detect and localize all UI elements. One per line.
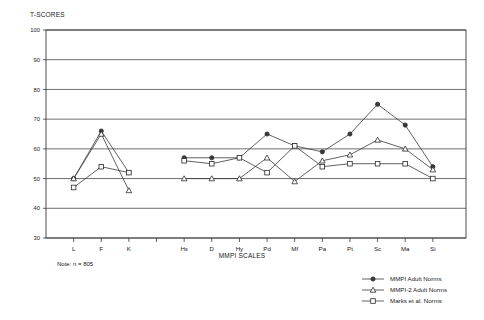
datapoint-L-square	[71, 185, 76, 190]
data-series-group	[71, 102, 436, 193]
legend-label-3: Marks et al. Norms	[390, 297, 442, 304]
series-line-seg-1	[74, 134, 129, 190]
y-tick-label-40: 40	[34, 205, 40, 211]
x-tick-label-Mf: Mf	[291, 245, 298, 252]
datapoint-Pa-square	[320, 164, 325, 169]
datapoint-Pd-triangle	[264, 155, 270, 160]
legend-item-1: MMPI Adult Norms	[362, 275, 442, 282]
legend-marker-circle	[371, 277, 375, 281]
x-tick-label-Pt: Pt	[347, 245, 353, 252]
sample-size-note: Note: n = 805	[57, 261, 94, 267]
x-axis-title: MMPI SCALES	[219, 252, 266, 259]
x-tick-label-F: F	[99, 245, 103, 252]
chart-legend: MMPI Adult NormsMMPI-2 Adult NormsMarks …	[362, 275, 447, 304]
x-tick-label-Hy: Hy	[236, 245, 244, 252]
datapoint-Sc-triangle	[375, 137, 381, 142]
legend-item-3: Marks et al. Norms	[362, 297, 442, 304]
x-tick-label-Si: Si	[430, 245, 436, 252]
plot-frame	[46, 30, 466, 238]
datapoint-K-square	[127, 170, 132, 175]
datapoint-Pt-triangle	[347, 152, 353, 157]
datapoint-K-triangle	[126, 188, 132, 193]
y-tick-label-100: 100	[30, 27, 40, 33]
x-tick-label-Sc: Sc	[374, 245, 381, 252]
x-axis-ticks: LFKHsDHyPdMfPaPtScMaSi	[72, 238, 436, 252]
y-tick-label-50: 50	[34, 176, 40, 182]
legend-label-2: MMPI-2 Adult Norms	[390, 286, 447, 293]
datapoint-D-square	[209, 161, 214, 166]
plot-border	[46, 30, 466, 238]
datapoint-Pd-circle	[265, 132, 269, 136]
datapoint-Pt-circle	[348, 132, 352, 136]
datapoint-Pa-circle	[320, 150, 324, 154]
x-tick-label-Hs: Hs	[180, 245, 188, 252]
series-line-seg-1	[74, 131, 129, 179]
x-tick-label-Pa: Pa	[319, 245, 327, 252]
mmpi-profile-chart: 10090807060504030 LFKHsDHyPdMfPaPtScMaSi…	[0, 0, 484, 320]
datapoint-Ma-square	[403, 161, 408, 166]
datapoint-Sc-circle	[375, 102, 379, 106]
y-tick-label-30: 30	[34, 235, 40, 241]
series-line-seg-2	[184, 104, 433, 166]
datapoint-F-square	[99, 164, 104, 169]
y-tick-label-60: 60	[34, 146, 40, 152]
datapoint-D-circle	[210, 156, 214, 160]
datapoint-Si-square	[431, 176, 436, 181]
datapoint-Ma-circle	[403, 123, 407, 127]
series-line-seg-2	[184, 140, 433, 182]
series-line-seg-2	[184, 146, 433, 179]
datapoint-Mf-square	[292, 144, 297, 149]
x-tick-label-Pd: Pd	[263, 245, 271, 252]
datapoint-Pt-square	[348, 161, 353, 166]
datapoint-Hs-square	[182, 158, 187, 163]
x-tick-label-D: D	[210, 245, 215, 252]
gridlines-group	[46, 30, 466, 238]
x-tick-label-K: K	[127, 245, 132, 252]
x-tick-label-Ma: Ma	[401, 245, 410, 252]
y-tick-label-70: 70	[34, 116, 40, 122]
y-tick-label-90: 90	[34, 57, 40, 63]
series-1-circle	[72, 102, 435, 180]
legend-marker-square	[371, 299, 376, 304]
datapoint-Sc-square	[375, 161, 380, 166]
datapoint-Hy-square	[237, 155, 242, 160]
y-tick-label-80: 80	[34, 87, 40, 93]
y-axis-title: T-SCORES	[30, 11, 65, 18]
y-axis-ticks: 10090807060504030	[30, 27, 46, 241]
series-3-square	[71, 144, 435, 190]
series-2-triangle	[71, 131, 436, 192]
series-line-seg-1	[74, 167, 129, 188]
x-tick-label-L: L	[72, 245, 76, 252]
legend-item-2: MMPI-2 Adult Norms	[362, 286, 447, 293]
datapoint-Pd-square	[265, 170, 270, 175]
chart-canvas: 10090807060504030 LFKHsDHyPdMfPaPtScMaSi…	[0, 0, 484, 320]
legend-label-1: MMPI Adult Norms	[390, 275, 442, 282]
